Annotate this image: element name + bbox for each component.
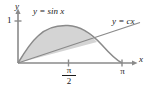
fraction-denominator: 2 bbox=[62, 76, 76, 86]
y-axis bbox=[15, 9, 20, 64]
sine-curve-label: y = sin x bbox=[33, 7, 64, 16]
fraction-numerator: π bbox=[62, 66, 76, 76]
y-axis-label: y bbox=[15, 2, 19, 11]
linear-line-label: y = cx bbox=[112, 17, 135, 26]
x-tick-label-pi: π bbox=[118, 67, 127, 76]
sine-and-line-figure: y x 1 y = sin x y = cx π 2 π bbox=[0, 0, 151, 91]
y-tick-label-1: 1 bbox=[7, 16, 12, 25]
x-tick-label-pi-over-2: π 2 bbox=[62, 66, 76, 87]
x-axis-label: x bbox=[139, 55, 143, 64]
